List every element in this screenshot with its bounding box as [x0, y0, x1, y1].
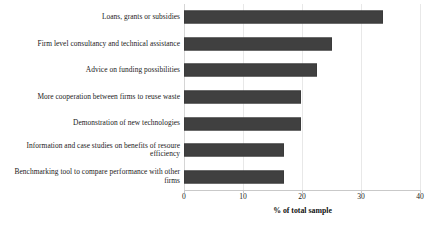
bar-track — [184, 170, 284, 183]
tick-label-30: 30 — [357, 192, 365, 201]
bar-track — [184, 117, 301, 130]
bar — [184, 11, 383, 24]
tick-label-0: 0 — [182, 192, 186, 201]
bar-track — [184, 64, 317, 77]
category-label: Benchmarking tool to compare performance… — [8, 168, 180, 185]
bar-row: Firm level consultancy and technical ass… — [0, 31, 446, 58]
bar-rows: Loans, grants or subsidiesFirm level con… — [0, 4, 446, 190]
bar-chart: Loans, grants or subsidiesFirm level con… — [0, 0, 446, 227]
bar-row: Benchmarking tool to compare performance… — [0, 163, 446, 190]
bar — [184, 117, 301, 130]
x-axis-title: % of total sample — [184, 206, 421, 215]
bar — [184, 90, 301, 103]
bar — [184, 64, 317, 77]
bar-row: Advice on funding possibilities — [0, 57, 446, 84]
bar-track — [184, 144, 284, 157]
bar — [184, 37, 332, 50]
tick-label-40: 40 — [416, 192, 424, 201]
bar — [184, 144, 284, 157]
bar-track — [184, 11, 383, 24]
bar — [184, 170, 284, 183]
tick-label-10: 10 — [239, 192, 247, 201]
bar-row: Demonstration of new technologies — [0, 110, 446, 137]
x-axis-ticks: 010203040 — [0, 192, 446, 206]
bar-track — [184, 37, 332, 50]
bar-row: Information and case studies on benefits… — [0, 137, 446, 164]
bar-row: More cooperation between firms to reuse … — [0, 84, 446, 111]
bar-track — [184, 90, 301, 103]
category-label: Information and case studies on benefits… — [8, 142, 180, 159]
category-label: Loans, grants or subsidies — [8, 13, 180, 22]
category-label: Advice on funding possibilities — [8, 66, 180, 75]
category-label: More cooperation between firms to reuse … — [8, 93, 180, 102]
tick-label-20: 20 — [298, 192, 306, 201]
category-label: Demonstration of new technologies — [8, 119, 180, 128]
bar-row: Loans, grants or subsidies — [0, 4, 446, 31]
category-label: Firm level consultancy and technical ass… — [8, 40, 180, 49]
